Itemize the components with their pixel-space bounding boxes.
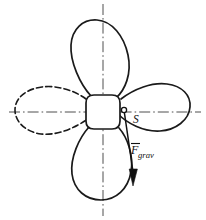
blade-top-outline bbox=[71, 20, 129, 98]
label-center-of-mass: S bbox=[133, 113, 139, 125]
blade-top bbox=[71, 20, 129, 98]
blade-bottom bbox=[72, 127, 132, 200]
propeller-figure: S F grav bbox=[0, 0, 206, 220]
force-vector-shaft bbox=[124, 110, 133, 172]
label-force-subscript: grav bbox=[138, 150, 154, 160]
center-of-mass-marker bbox=[121, 107, 126, 112]
hub-outline bbox=[86, 95, 120, 129]
label-force-gravity: F grav bbox=[130, 143, 154, 160]
force-vector-shaft-lower bbox=[133, 170, 134, 176]
blade-bottom-outline bbox=[72, 127, 132, 200]
blade-right-outline bbox=[118, 84, 190, 131]
blade-right bbox=[118, 84, 190, 131]
propeller-diagram: S F grav bbox=[0, 0, 206, 220]
blade-left-outline bbox=[15, 87, 88, 135]
blade-left bbox=[15, 87, 88, 135]
propeller-hub bbox=[86, 95, 120, 129]
